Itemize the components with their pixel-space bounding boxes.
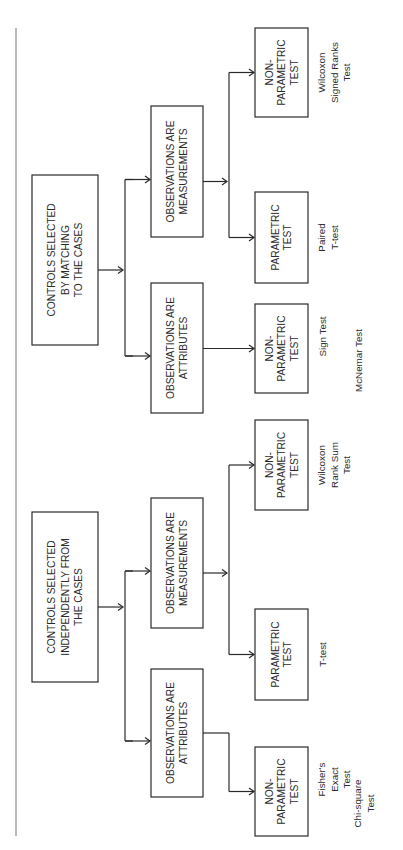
example-test-matched-attr-np-1: McNemar Test — [353, 329, 364, 392]
test-type-box-matched-meas-np: NON-PARAMETRICTEST — [255, 28, 308, 117]
design-box-matched: CONTROLS SELECTEDBY MATCHINGTO THE CASES — [32, 175, 98, 345]
example-test-matched-meas-np-0-line: Test — [341, 63, 352, 81]
observation-box-indep-attr: OBSERVATIONS AREATTRIBUTES — [151, 669, 203, 797]
observation-box-matched-meas-label-line: OBSERVATIONS ARE — [165, 120, 176, 222]
observation-box-matched-attr-label-line: OBSERVATIONS ARE — [165, 297, 176, 399]
observation-box-matched-attr-frame — [151, 283, 203, 413]
test-type-box-indep-meas-p: PARAMETRICTEST — [255, 609, 308, 700]
observation-box-indep-meas: OBSERVATIONS AREMEASUREMENTS — [151, 498, 203, 628]
observation-box-matched-meas: OBSERVATIONS AREMEASUREMENTS — [151, 106, 203, 237]
test-type-box-matched-attr-np-label-line: PARAMETRIC — [276, 315, 287, 381]
test-type-box-indep-meas-np: NON-PARAMETRICTEST — [255, 420, 308, 510]
test-type-box-matched-meas-p-label-line: TEST — [282, 224, 293, 250]
test-type-box-indep-meas-p-label-line: PARAMETRIC — [270, 621, 281, 687]
nodes: CONTROLS SELECTEDBY MATCHINGTO THE CASES… — [32, 28, 376, 836]
observation-box-matched-attr: OBSERVATIONS AREATTRIBUTES — [151, 283, 203, 413]
observation-box-indep-attr-frame — [151, 669, 203, 797]
example-test-matched-meas-p-0-line: Paired — [316, 223, 327, 251]
test-type-box-indep-attr-np-label-line: PARAMETRIC — [276, 758, 287, 824]
design-box-independent: CONTROLS SELECTEDINDEPENDENTLY FROMTHE C… — [32, 512, 98, 682]
design-box-matched-label-line: TO THE CASES — [73, 223, 84, 298]
observation-box-indep-meas-frame — [151, 498, 203, 628]
example-test-indep-attr-np-0-line: Fisher's — [316, 762, 327, 796]
design-box-independent-label-line: THE CASES — [73, 568, 84, 626]
example-test-matched-attr-np-0-line: Sign Test — [317, 316, 328, 356]
test-type-box-matched-meas-np-label-line: PARAMETRIC — [276, 39, 287, 105]
design-box-matched-label-line: CONTROLS SELECTED — [46, 203, 57, 316]
example-test-indep-attr-np-1: Chi-squareTest — [352, 779, 376, 827]
test-type-box-indep-attr-np-label-line: NON- — [264, 778, 275, 804]
example-test-indep-attr-np-0-line: Test — [341, 770, 352, 788]
test-type-box-matched-meas-np-label-line: NON- — [264, 59, 275, 85]
design-box-independent-label-line: CONTROLS SELECTED — [46, 540, 57, 653]
example-test-matched-meas-np-0: WilcoxonSigned RanksTest — [316, 42, 352, 103]
design-box-matched-label-line: BY MATCHING — [60, 225, 71, 295]
example-test-indep-attr-np-1-line: Chi-square — [352, 779, 363, 827]
design-box-independent-label-line: INDEPENDENTLY FROM — [60, 538, 71, 655]
example-test-indep-attr-np-0-line: Exact — [329, 767, 340, 792]
test-type-box-matched-meas-np-label-line: TEST — [289, 59, 300, 85]
example-test-indep-meas-p-0: T-test — [317, 642, 328, 667]
statistical-test-flowchart: CONTROLS SELECTEDBY MATCHINGTO THE CASES… — [0, 0, 403, 850]
observation-box-matched-meas-label-line: MEASUREMENTS — [178, 128, 189, 214]
observation-box-indep-attr-label-line: OBSERVATIONS ARE — [165, 682, 176, 784]
example-test-indep-meas-np-0: WilcoxonRank SumTest — [316, 442, 352, 488]
example-test-indep-meas-np-0-line: Test — [341, 456, 352, 474]
test-type-box-indep-meas-np-label-line: PARAMETRIC — [276, 432, 287, 498]
test-type-box-matched-attr-np: NON-PARAMETRICTEST — [255, 304, 308, 393]
example-test-matched-attr-np-1-line: McNemar Test — [353, 329, 364, 392]
example-test-matched-meas-p-0: PairedT-test — [316, 223, 340, 251]
observation-box-indep-attr-label-line: ATTRIBUTES — [178, 701, 189, 764]
test-type-box-indep-attr-np: NON-PARAMETRICTEST — [255, 747, 308, 836]
test-type-box-indep-meas-p-label-line: TEST — [282, 641, 293, 667]
example-test-indep-attr-np-1-line: Test — [365, 794, 376, 812]
test-type-box-indep-meas-np-label-line: TEST — [289, 452, 300, 478]
test-type-box-matched-meas-p-label-line: PARAMETRIC — [270, 204, 281, 270]
example-test-matched-meas-np-0-line: Wilcoxon — [316, 53, 327, 93]
example-test-matched-meas-np-0-line: Signed Ranks — [329, 42, 340, 103]
test-type-box-matched-attr-np-label-line: TEST — [289, 335, 300, 361]
example-test-matched-meas-p-0-line: T-test — [329, 225, 340, 250]
test-type-box-indep-attr-np-label-line: TEST — [289, 778, 300, 804]
test-type-box-matched-attr-np-label-line: NON- — [264, 335, 275, 361]
observation-box-matched-attr-label-line: ATTRIBUTES — [178, 316, 189, 379]
example-test-indep-meas-np-0-line: Rank Sum — [329, 442, 340, 488]
example-test-indep-meas-np-0-line: Wilcoxon — [316, 445, 327, 485]
observation-box-indep-meas-label-line: OBSERVATIONS ARE — [165, 512, 176, 614]
test-type-box-indep-meas-np-label-line: NON- — [264, 452, 275, 478]
observation-box-matched-meas-frame — [151, 106, 203, 237]
example-test-indep-meas-p-0-line: T-test — [317, 642, 328, 667]
observation-box-indep-meas-label-line: MEASUREMENTS — [178, 520, 189, 606]
example-test-indep-attr-np-0: Fisher'sExactTest — [316, 762, 352, 796]
example-test-matched-attr-np-0: Sign Test — [317, 316, 328, 356]
test-type-box-matched-meas-p: PARAMETRICTEST — [255, 192, 308, 283]
